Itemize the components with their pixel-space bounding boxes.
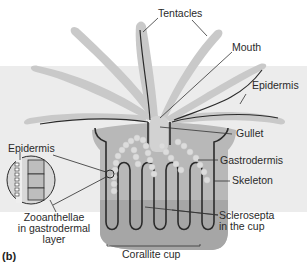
- label-skeleton: Skeleton: [232, 175, 273, 186]
- label-sclerosepta: Sclerosepta in the cup: [219, 210, 274, 232]
- label-gullet: Gullet: [236, 128, 263, 139]
- skeleton-base: [100, 200, 228, 250]
- tentacles-group: [24, 22, 285, 125]
- label-mouth: Mouth: [232, 42, 261, 53]
- label-epidermis-left: Epidermis: [8, 143, 55, 154]
- panel-label: (b): [2, 250, 16, 262]
- coral-polyp-diagram: Tentacles Mouth Epidermis Gullet Gastrod…: [0, 0, 307, 266]
- label-sclerosepta-line2: in the cup: [219, 221, 274, 232]
- label-corallite-cup: Corallite cup: [122, 249, 180, 260]
- label-tentacles: Tentacles: [158, 8, 202, 19]
- label-epidermis-right: Epidermis: [252, 80, 299, 91]
- label-zooxanthellae-line3: layer: [14, 234, 94, 245]
- label-zooxanthellae: Zooanthellae in gastrodermal layer: [14, 212, 94, 245]
- label-gastrodermis: Gastrodermis: [220, 155, 283, 166]
- magnified-inset: [7, 156, 55, 204]
